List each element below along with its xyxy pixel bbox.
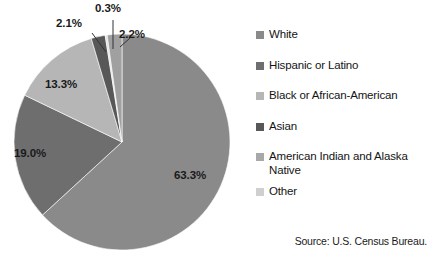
legend-item[interactable]: Black or African-American <box>256 89 431 103</box>
legend-item-label: Other <box>269 185 297 199</box>
slice-label-white: 63.3% <box>174 169 206 181</box>
legend-swatch-icon <box>256 188 264 196</box>
legend-swatch-icon <box>256 92 264 100</box>
chart-page: 63.3% 19.0% 13.3% 2.1% 0.3% 2.2% WhiteHi… <box>0 0 433 255</box>
legend-swatch-icon <box>256 153 264 161</box>
legend-item[interactable]: Other <box>256 185 431 199</box>
legend-item-label: Asian <box>269 120 297 134</box>
legend-swatch-icon <box>256 62 264 70</box>
pie-chart-area: 63.3% 19.0% 13.3% 2.1% 0.3% 2.2% <box>0 0 250 255</box>
pie-slice-group <box>14 34 230 250</box>
legend-swatch-icon <box>256 123 264 131</box>
legend-item[interactable]: Asian <box>256 120 431 134</box>
slice-label-black-or-african-american: 13.3% <box>45 78 77 90</box>
legend-item-label: Black or African-American <box>269 89 398 103</box>
legend-item[interactable]: White <box>256 28 431 42</box>
chart-legend: WhiteHispanic or LatinoBlack or African-… <box>256 28 431 216</box>
slice-label-hispanic-or-latino: 19.0% <box>14 147 46 159</box>
legend-item[interactable]: Hispanic or Latino <box>256 59 431 73</box>
legend-swatch-icon <box>256 31 264 39</box>
callout-label-asian: 2.1% <box>56 17 82 29</box>
legend-item[interactable]: American Indian and Alaska Native <box>256 150 431 177</box>
legend-item-label: American Indian and Alaska Native <box>269 150 431 177</box>
source-note: Source: U.S. Census Bureau. <box>295 235 427 247</box>
callout-label-other: 2.2% <box>119 28 145 40</box>
callout-label-american-indian: 0.3% <box>95 2 121 14</box>
legend-item-label: White <box>269 28 298 42</box>
legend-item-label: Hispanic or Latino <box>269 59 358 73</box>
